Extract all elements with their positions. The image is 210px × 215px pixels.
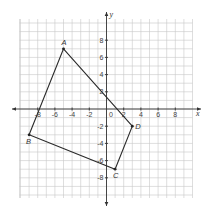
x-tick-label: -4 [69,111,75,118]
y-tick-label: 6 [100,54,104,61]
grid [20,19,193,198]
x-axis-label: x [195,109,200,118]
x-tick-label: 6 [156,111,160,118]
x-tick-label: 4 [139,111,143,118]
y-tick-label: -4 [97,140,103,147]
vertex-a-point [62,47,65,50]
y-axis-up-arrow-icon [105,12,109,16]
vertex-b-point [28,133,31,136]
x-axis-left-arrow-icon [12,107,16,111]
vertex-d-point [131,125,134,128]
vertex-c-label: C [113,171,119,180]
origin-label: 0 [109,111,113,118]
x-tick-label: -2 [86,111,92,118]
vertex-a-label: A [61,38,67,47]
y-axis-down-arrow-icon [105,202,109,206]
vertex-c-point [114,168,117,171]
y-tick-label: -8 [97,174,103,181]
y-axis-label: y [109,10,114,19]
x-tick-label: -6 [52,111,58,118]
y-tick-label: 8 [100,37,104,44]
y-tick-label: 4 [100,71,104,78]
vertex-d-label: D [135,122,141,131]
y-tick-label: -2 [97,123,103,130]
x-tick-label: 8 [173,111,177,118]
vertex-b-label: B [26,137,31,146]
coordinate-plane: xy -8-6-4-224688642-2-4-6-80 ADCB [0,0,210,215]
